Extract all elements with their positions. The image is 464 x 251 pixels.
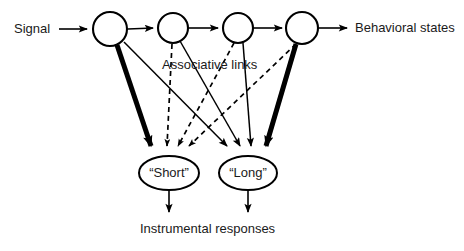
associative-links-label: Associative links	[162, 57, 258, 72]
chain-node-1[interactable]	[93, 12, 127, 46]
diagram-canvas: Signal Behavioral states Associative lin…	[0, 0, 464, 251]
edge-node1-to-short-thick	[117, 45, 151, 146]
response-node-long-label: “Long”	[229, 165, 267, 180]
chain-node-2[interactable]	[158, 13, 188, 43]
chain-node-4[interactable]	[286, 12, 318, 44]
chain-node-3[interactable]	[223, 13, 253, 43]
associative-network-diagram: Signal Behavioral states Associative lin…	[0, 0, 464, 251]
instrumental-responses-label: Instrumental responses	[140, 221, 276, 236]
response-node-short-label: “Short”	[149, 165, 189, 180]
edge-node1-to-node2	[128, 28, 153, 29]
behavioral-states-label: Behavioral states	[355, 20, 455, 35]
signal-label: Signal	[14, 21, 50, 36]
